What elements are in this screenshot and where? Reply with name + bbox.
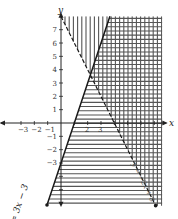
- x-tick-label: 2: [85, 126, 89, 134]
- y-axis-label: y: [57, 5, 64, 15]
- solid-line-label: y = 3x − 3: [5, 183, 30, 219]
- y-tick-label: 7: [53, 26, 57, 34]
- inequality-graph: −3−2−123−3−2−11234567 y x y = 3x − 3 y =…: [0, 0, 178, 219]
- solid-line-endpoint: [45, 203, 49, 207]
- y-tick-label: −2: [47, 146, 57, 154]
- x-tick-label: −3: [18, 126, 28, 134]
- y-tick-label: 6: [53, 40, 58, 48]
- dashed-line-endpoint: [154, 204, 158, 208]
- y-tick-label: 5: [53, 53, 57, 61]
- y-tick-label: 3: [53, 80, 57, 88]
- x-tick-label: −2: [31, 126, 41, 134]
- x-tick-label: 3: [98, 126, 102, 134]
- y-tick-label: −1: [47, 133, 57, 141]
- y-tick-label: 1: [53, 106, 57, 114]
- y-tick-label: −3: [47, 159, 57, 167]
- x-axis-left-arrow-icon: [0, 121, 5, 126]
- y-tick-label: 4: [53, 66, 58, 74]
- y-axis-down-arrow-icon: [59, 202, 64, 207]
- y-tick-label: 2: [53, 93, 57, 101]
- x-axis-right-arrow-icon: [162, 121, 167, 126]
- x-axis-label: x: [169, 118, 174, 128]
